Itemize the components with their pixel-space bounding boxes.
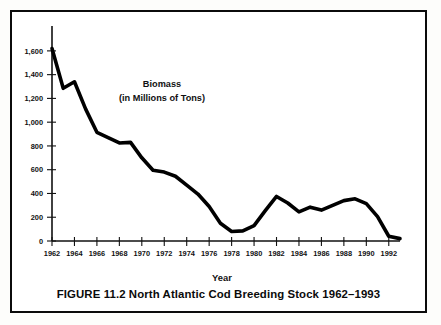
x-tick-label-1968: 1968 <box>111 249 127 258</box>
annotation-biomass-line2: (in Millions of Tons) <box>119 93 205 103</box>
y-tick-label-1000: 1,000 <box>25 118 44 127</box>
y-tick-label-400: 400 <box>31 189 43 198</box>
figure-container: 02004006008001,0001,2001,4001,600 196219… <box>0 0 441 325</box>
x-tick-label-1970: 1970 <box>134 249 150 258</box>
x-tick-label-1962: 1962 <box>44 249 60 258</box>
x-tick-label-1980: 1980 <box>246 249 262 258</box>
y-tick-label-0: 0 <box>39 237 43 246</box>
y-tick-label-1400: 1,400 <box>25 70 44 79</box>
x-tick-label-1964: 1964 <box>66 249 83 258</box>
x-tick-label-1988: 1988 <box>336 249 352 258</box>
x-tick-label-1976: 1976 <box>201 249 217 258</box>
x-tick-label-1984: 1984 <box>291 249 308 258</box>
x-tick-label-1990: 1990 <box>358 249 374 258</box>
y-tick-label-200: 200 <box>31 213 43 222</box>
x-tick-label-1978: 1978 <box>223 249 239 258</box>
line-chart-svg: 02004006008001,0001,2001,4001,600 196219… <box>0 0 441 325</box>
y-tick-label-1600: 1,600 <box>25 47 44 56</box>
y-tick-label-600: 600 <box>31 165 43 174</box>
x-tick-label-1972: 1972 <box>156 249 172 258</box>
x-tick-label-1974: 1974 <box>178 249 195 258</box>
figure-caption: FIGURE 11.2 North Atlantic Cod Breeding … <box>12 288 425 300</box>
x-axis-title: Year <box>212 272 232 283</box>
biomass-series-line <box>52 49 400 239</box>
x-tick-label-1966: 1966 <box>89 249 105 258</box>
chart-plot-area: 02004006008001,0001,2001,4001,600 196219… <box>0 0 441 325</box>
x-tick-label-1992: 1992 <box>381 249 397 258</box>
annotation-biomass-line1: Biomass <box>143 79 181 89</box>
y-tick-label-800: 800 <box>31 142 43 151</box>
x-tick-label-1986: 1986 <box>313 249 329 258</box>
y-tick-label-1200: 1,200 <box>25 94 44 103</box>
x-axis-tick-labels: 1962196419661968197019721974197619781980… <box>44 249 397 258</box>
x-tick-label-1982: 1982 <box>268 249 284 258</box>
y-axis-tick-labels: 02004006008001,0001,2001,4001,600 <box>25 47 44 246</box>
